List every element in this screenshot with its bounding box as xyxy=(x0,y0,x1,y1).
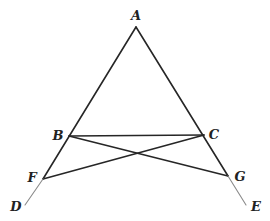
segment-bc xyxy=(69,135,204,136)
segment-cf xyxy=(43,135,204,179)
segment-af xyxy=(43,27,136,179)
point-label-d: D xyxy=(9,199,22,214)
point-labels: ABCFGDE xyxy=(9,8,262,214)
point-label-b: B xyxy=(52,128,64,143)
geometry-diagram: ABCFGDE xyxy=(0,0,270,221)
segment-bg xyxy=(69,136,228,176)
point-label-g: G xyxy=(234,169,245,184)
point-label-c: C xyxy=(209,127,220,142)
point-label-a: A xyxy=(129,8,141,23)
segment-ag xyxy=(136,27,228,176)
point-label-e: E xyxy=(250,199,262,214)
point-label-f: F xyxy=(26,170,37,185)
segments xyxy=(25,27,246,205)
